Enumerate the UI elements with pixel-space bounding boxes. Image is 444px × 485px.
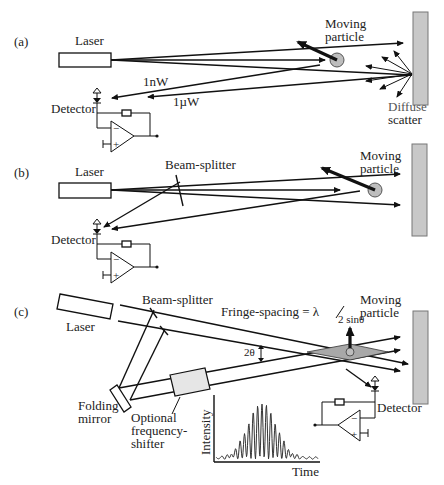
panel-b-tag: (b) [14,165,29,180]
svg-text:+: + [113,269,119,281]
detector-output-arrow [93,219,101,224]
plot-xlabel: Time [292,464,319,479]
particle-label: particle [360,305,399,320]
panel-a-tag: (a) [14,34,28,49]
beam-splitter-label: Beam-splitter [142,292,213,307]
photodiode-icon [371,386,379,391]
surface [413,311,428,404]
diffuse-surface [413,12,428,105]
detector-label: Detector [51,101,96,116]
beam [111,43,403,60]
angle-label: 2θ [244,346,255,358]
doppler-burst-plot: Intensity Time [198,395,320,479]
velocity-arrow [298,42,337,60]
detector-output-arrow [371,376,379,381]
feedback-resistor [122,241,131,247]
laser-label: Laser [75,33,105,48]
svg-text:−: − [113,253,119,265]
plot-ylabel: Intensity [198,409,213,455]
feedback-resistor [122,110,131,116]
scatter-label: scatter [388,112,423,127]
laser-box [59,53,111,67]
beam [111,60,412,75]
svg-text:−: − [113,122,119,134]
panel-c-tag: (c) [14,304,28,319]
surface [412,144,427,236]
laser-box [59,183,111,198]
panel-b: (b) Laser Beam-splitter Moving particle [14,144,427,283]
particle-label: particle [325,29,364,44]
power-label-1nw: 1nW [143,74,169,89]
detector-circuit: − + [93,219,157,283]
scattered-beam [346,369,371,387]
detector-circuit: − + [93,88,157,152]
doppler-burst-signal [216,404,318,459]
laser-box [57,294,113,319]
beam-splitter-label: Beam-splitter [165,157,236,172]
svg-text:+: + [113,138,119,150]
moving-particle [346,348,354,356]
svg-text:−: − [351,412,357,424]
panel-c: (c) Laser Beam-splitter 2θ Fringe-spac [14,292,428,479]
particle-label: particle [360,161,399,176]
svg-text:+: + [351,428,357,440]
panel-a: (a) Laser Moving particle Diffuse scatte… [14,12,428,152]
beam-to-mirror [130,329,165,400]
ldv-diagram: (a) Laser Moving particle Diffuse scatte… [0,0,444,485]
laser-label: Laser [75,164,105,179]
detector-output-arrow [93,88,101,93]
detector-label: Detector [51,232,96,247]
mirror-label: mirror [78,411,112,426]
feedback-resistor [335,399,344,405]
laser-label: Laser [66,319,96,334]
frequency-shifter [170,368,210,396]
beam-lower-1 [119,337,400,388]
fringe-spacing-label: Fringe-spacing = λ [221,304,320,319]
power-label-1uw: 1µW [173,94,200,109]
shifter-label: shifter [131,436,165,451]
detector-label: Detector [377,400,422,415]
